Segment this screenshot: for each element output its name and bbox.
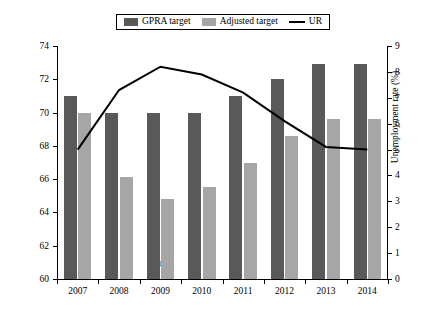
legend-line-icon-ur (289, 21, 305, 23)
y-tick-label-left: 64 (9, 207, 49, 217)
plot-area: 6062646668707274 0123456789 200720082009… (57, 46, 388, 280)
y-tick-right (388, 227, 392, 228)
x-tick (57, 280, 58, 284)
y-tick-label-left: 62 (9, 241, 49, 251)
y-tick-right (388, 201, 392, 202)
x-tick-label: 2012 (262, 286, 308, 296)
y-tick-label-left: 66 (9, 174, 49, 184)
x-tick (223, 280, 224, 284)
y-tick-right (388, 46, 392, 47)
x-tick-label: 2007 (55, 286, 101, 296)
x-tick (347, 280, 348, 284)
x-tick (388, 280, 389, 284)
y-tick-right (388, 150, 392, 151)
x-tick-label: 2008 (96, 286, 142, 296)
y-tick-label-left: 72 (9, 74, 49, 84)
x-tick-label: 2009 (137, 286, 183, 296)
chart-container: GPRA target Adjusted target UR Entered e… (0, 0, 438, 320)
y-tick-label-right: 0 (395, 274, 435, 284)
y-tick-label-right: 9 (395, 41, 435, 51)
y-tick-label-left: 68 (9, 141, 49, 151)
legend-label-ur: UR (309, 17, 322, 27)
y-tick-label-right: 7 (395, 93, 435, 103)
x-tick-label: 2013 (303, 286, 349, 296)
y-tick-right (388, 72, 392, 73)
legend-swatch-icon-adjusted (202, 18, 216, 26)
legend-swatch-icon-gpra (124, 18, 138, 26)
y-tick-label-left: 60 (9, 274, 49, 284)
legend-item-adjusted-target: Adjusted target (202, 17, 278, 27)
x-tick (98, 280, 99, 284)
chart-legend: GPRA target Adjusted target UR (116, 14, 330, 30)
y-tick-label-right: 3 (395, 196, 435, 206)
x-tick (305, 280, 306, 284)
y-tick-label-right: 1 (395, 248, 435, 258)
y-tick-label-right: 2 (395, 222, 435, 232)
x-tick-label: 2011 (220, 286, 266, 296)
y-tick-right (388, 175, 392, 176)
x-tick-label: 2010 (179, 286, 225, 296)
x-tick-label: 2014 (344, 286, 390, 296)
ur-line-series (57, 46, 388, 280)
y-tick-right (388, 253, 392, 254)
x-tick (264, 280, 265, 284)
y-tick-label-right: 4 (395, 170, 435, 180)
ur-line-path (78, 67, 368, 150)
y-tick-label-right: 5 (395, 145, 435, 155)
legend-item-ur: UR (289, 17, 322, 27)
legend-item-gpra-target: GPRA target (124, 17, 191, 27)
y-tick-label-right: 8 (395, 67, 435, 77)
legend-label-gpra: GPRA target (142, 17, 191, 27)
y-tick-right (388, 98, 392, 99)
x-tick (181, 280, 182, 284)
legend-label-adjusted: Adjusted target (220, 17, 278, 27)
y-tick-label-left: 74 (9, 41, 49, 51)
x-tick (140, 280, 141, 284)
y-tick-label-right: 6 (395, 119, 435, 129)
y-tick-label-left: 70 (9, 108, 49, 118)
y-tick-right (388, 124, 392, 125)
